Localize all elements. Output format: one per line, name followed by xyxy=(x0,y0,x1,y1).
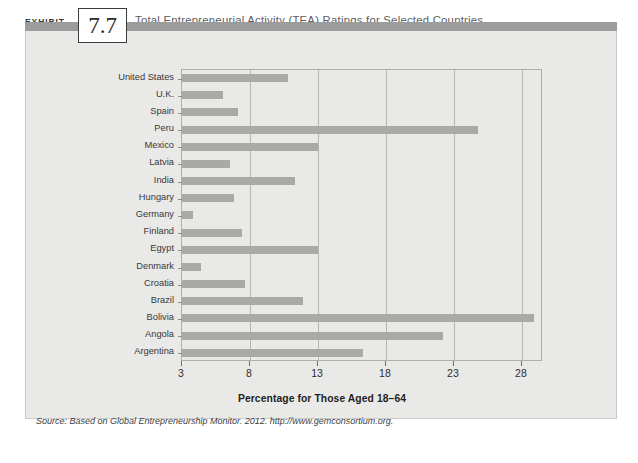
y-axis-labels: United StatesU.K.SpainPeruMexicoLatviaIn… xyxy=(26,69,174,361)
y-axis-label: Latvia xyxy=(149,157,174,167)
bar xyxy=(182,246,318,254)
y-axis-label: Mexico xyxy=(145,140,174,150)
y-axis-tick xyxy=(178,147,182,148)
y-axis-label: Argentina xyxy=(134,346,174,356)
bar-chart: United StatesU.K.SpainPeruMexicoLatviaIn… xyxy=(26,31,618,419)
y-axis-label: Hungary xyxy=(139,192,174,202)
y-axis-label: India xyxy=(154,175,174,185)
y-axis-label: Bolivia xyxy=(147,312,174,322)
bar-row xyxy=(182,190,541,207)
x-axis-tick xyxy=(181,361,182,366)
x-axis-tick xyxy=(249,361,250,366)
y-axis-tick xyxy=(178,113,182,114)
y-axis-label: Peru xyxy=(154,123,174,133)
bar-row xyxy=(182,156,541,173)
bar xyxy=(182,74,288,82)
x-axis-tick xyxy=(385,361,386,366)
bar xyxy=(182,297,303,305)
bar-row xyxy=(182,207,541,224)
x-axis-tick xyxy=(521,361,522,366)
y-axis-label: Denmark xyxy=(136,261,174,271)
bar-row xyxy=(182,328,541,345)
bar-row xyxy=(182,225,541,242)
x-axis-tick xyxy=(317,361,318,366)
source-note: Source: Based on Global Entrepreneurship… xyxy=(36,416,393,426)
bar xyxy=(182,194,234,202)
y-axis-tick xyxy=(178,199,182,200)
bar xyxy=(182,263,201,271)
x-axis-tick-label: 28 xyxy=(515,367,527,379)
bar xyxy=(182,160,230,168)
bar xyxy=(182,314,534,322)
bar xyxy=(182,229,242,237)
y-axis-tick xyxy=(178,164,182,165)
bar xyxy=(182,280,245,288)
x-axis: 3813182328 xyxy=(181,361,542,387)
bar xyxy=(182,108,238,116)
bar-row xyxy=(182,87,541,104)
x-axis-tick-label: 13 xyxy=(311,367,323,379)
bar-row xyxy=(182,173,541,190)
bar-row xyxy=(182,259,541,276)
bar xyxy=(182,91,223,99)
y-axis-tick xyxy=(178,79,182,80)
bar-row xyxy=(182,104,541,121)
y-axis-tick xyxy=(178,130,182,131)
exhibit-panel: United StatesU.K.SpainPeruMexicoLatviaIn… xyxy=(25,31,617,419)
x-axis-title: Percentage for Those Aged 18–64 xyxy=(26,393,618,404)
bar-row xyxy=(182,293,541,310)
x-axis-tick-label: 3 xyxy=(178,367,184,379)
bar xyxy=(182,143,318,151)
y-axis-label: Croatia xyxy=(144,278,174,288)
y-axis-tick xyxy=(178,302,182,303)
y-axis-label: Spain xyxy=(150,106,174,116)
bar-row xyxy=(182,242,541,259)
y-axis-tick xyxy=(178,182,182,183)
bar xyxy=(182,126,478,134)
y-axis-tick xyxy=(178,336,182,337)
bar-row xyxy=(182,276,541,293)
x-axis-tick xyxy=(453,361,454,366)
y-axis-label: U.K. xyxy=(156,89,174,99)
bar xyxy=(182,332,443,340)
bar xyxy=(182,211,193,219)
bar-row xyxy=(182,345,541,362)
y-axis-label: Brazil xyxy=(151,295,174,305)
bar-row xyxy=(182,122,541,139)
y-axis-tick xyxy=(178,216,182,217)
x-axis-tick-label: 8 xyxy=(246,367,252,379)
y-axis-tick xyxy=(178,96,182,97)
y-axis-tick xyxy=(178,285,182,286)
y-axis-tick xyxy=(178,268,182,269)
y-axis-label: Angola xyxy=(145,329,174,339)
exhibit-number-box: 7.7 xyxy=(78,8,127,43)
plot-area xyxy=(181,69,542,361)
y-axis-tick xyxy=(178,353,182,354)
bar xyxy=(182,177,295,185)
x-axis-tick-label: 18 xyxy=(379,367,391,379)
bar xyxy=(182,349,363,357)
y-axis-tick xyxy=(178,319,182,320)
y-axis-label: United States xyxy=(118,72,174,82)
bar-row xyxy=(182,310,541,327)
exhibit-number: 7.7 xyxy=(88,14,117,37)
y-axis-label: Germany xyxy=(136,209,174,219)
y-axis-label: Finland xyxy=(144,226,175,236)
y-axis-tick xyxy=(178,250,182,251)
bar-row xyxy=(182,70,541,87)
x-axis-tick-label: 23 xyxy=(447,367,459,379)
bar-row xyxy=(182,139,541,156)
y-axis-label: Egypt xyxy=(150,243,174,253)
y-axis-tick xyxy=(178,233,182,234)
